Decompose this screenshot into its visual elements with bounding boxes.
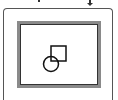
shapes-icon[interactable] <box>42 45 68 73</box>
top-tick-mark <box>38 0 40 2</box>
canvas <box>0 0 118 100</box>
top-arrow-mark <box>89 0 91 4</box>
